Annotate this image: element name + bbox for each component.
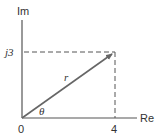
real-tick-label: 4	[111, 123, 117, 135]
magnitude-label: r	[64, 71, 69, 83]
imag-tick-label: j3	[3, 46, 14, 58]
origin-label: 0	[18, 123, 24, 135]
phasor-vector-arrow	[22, 54, 112, 118]
real-axis-label: Re	[140, 112, 154, 124]
imaginary-axis-label: Im	[17, 5, 29, 17]
angle-label: θ	[39, 105, 45, 117]
complex-plane-diagram: Im Re j3 0 4 r θ	[0, 0, 155, 140]
